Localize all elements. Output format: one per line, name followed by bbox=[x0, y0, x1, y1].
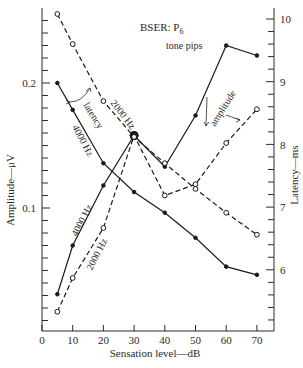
x-tick-label: 10 bbox=[67, 334, 79, 346]
chart-title: BSER: P6 bbox=[140, 21, 183, 36]
data-point bbox=[255, 54, 259, 58]
x-axis-label: Sensation level—dB bbox=[110, 347, 201, 359]
series-4000-hz-amplitude bbox=[56, 44, 259, 296]
data-point bbox=[132, 190, 136, 194]
data-point bbox=[255, 273, 259, 277]
chart-subtitle: tone pips bbox=[166, 40, 202, 51]
data-point bbox=[163, 211, 167, 215]
x-tick-labels: 010203040506070 bbox=[39, 334, 263, 346]
data-point bbox=[224, 210, 229, 215]
label-2000hz-latency: 2000 Hz bbox=[108, 97, 138, 131]
data-point bbox=[224, 44, 228, 48]
data-point bbox=[55, 12, 60, 17]
data-point bbox=[162, 193, 167, 198]
data-point bbox=[194, 114, 198, 118]
data-point bbox=[102, 161, 106, 165]
x-tick-label: 70 bbox=[251, 334, 263, 346]
data-point bbox=[193, 187, 198, 192]
y-left-tick-0.2: 0.2 bbox=[22, 77, 36, 89]
y-right-axis-label: Latency—ms bbox=[288, 145, 300, 204]
left-ticks bbox=[42, 21, 50, 321]
y-left-axis-label: Amplitude—μV bbox=[4, 154, 16, 226]
x-tick-label: 40 bbox=[159, 334, 171, 346]
axes bbox=[42, 8, 274, 331]
data-point bbox=[56, 81, 60, 85]
x-ticks bbox=[42, 325, 257, 331]
data-point bbox=[102, 184, 106, 188]
latency-annotation: latency bbox=[81, 100, 106, 130]
data-point bbox=[56, 292, 60, 296]
data-point bbox=[71, 108, 75, 112]
data-point bbox=[55, 309, 60, 314]
label-4000hz-amplitude: 4000 Hz bbox=[69, 202, 95, 238]
data-point bbox=[132, 134, 137, 139]
data-point bbox=[224, 265, 228, 269]
data-point bbox=[255, 232, 260, 237]
chart: 010203040506070 0.2 0.1 10 9 8 7 6 Sensa… bbox=[0, 0, 303, 368]
y-right-tick-8: 8 bbox=[280, 139, 286, 151]
x-tick-label: 0 bbox=[39, 334, 45, 346]
data-point bbox=[193, 182, 198, 187]
right-ticks bbox=[266, 19, 274, 320]
x-tick-label: 60 bbox=[221, 334, 233, 346]
y-right-tick-6: 6 bbox=[280, 264, 286, 276]
y-left-tick-0.1: 0.1 bbox=[22, 202, 36, 214]
data-point bbox=[101, 226, 106, 231]
data-point bbox=[194, 236, 198, 240]
x-tick-label: 50 bbox=[190, 334, 202, 346]
x-tick-label: 20 bbox=[98, 334, 110, 346]
x-tick-label: 30 bbox=[129, 334, 141, 346]
data-point bbox=[70, 276, 75, 281]
amplitude-annotation: amplitude bbox=[207, 88, 238, 128]
data-point bbox=[224, 141, 229, 146]
data-point bbox=[71, 244, 75, 248]
data-point bbox=[101, 99, 106, 104]
y-right-tick-7: 7 bbox=[280, 201, 286, 213]
y-right-tick-9: 9 bbox=[280, 76, 286, 88]
data-point bbox=[162, 161, 167, 166]
y-right-tick-10: 10 bbox=[280, 13, 292, 25]
data-point bbox=[70, 42, 75, 47]
label-4000hz-latency: 4000 Hz bbox=[70, 123, 96, 159]
data-point bbox=[255, 107, 260, 112]
